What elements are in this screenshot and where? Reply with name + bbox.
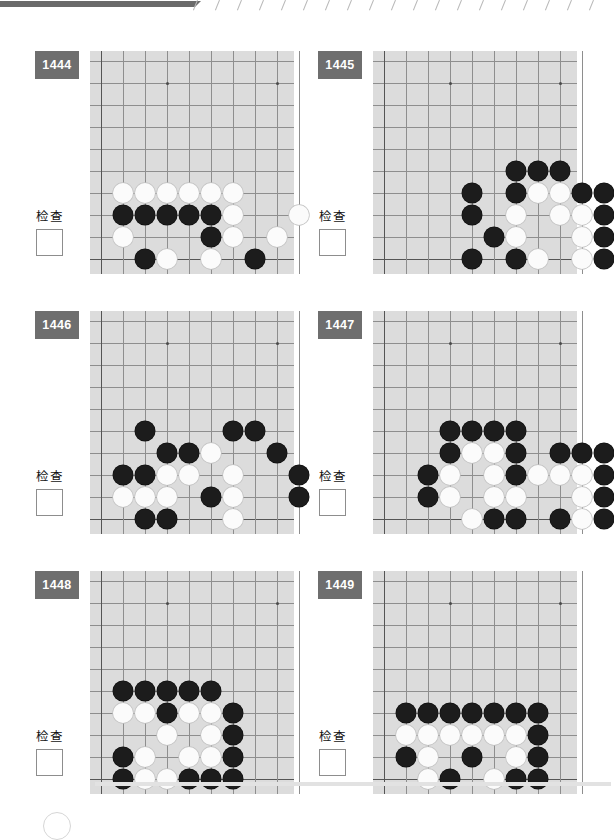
check-checkbox[interactable] [319,229,346,256]
black-stone[interactable] [462,205,482,225]
black-stone[interactable] [572,443,592,463]
black-stone[interactable] [506,769,526,789]
white-stone[interactable] [484,487,504,507]
white-stone[interactable] [506,205,526,225]
white-stone[interactable] [201,183,221,203]
white-stone[interactable] [157,249,177,269]
white-stone[interactable] [528,183,548,203]
white-stone[interactable] [201,249,221,269]
black-stone[interactable] [506,183,526,203]
go-board[interactable] [373,311,577,534]
black-stone[interactable] [528,725,548,745]
black-stone[interactable] [179,681,199,701]
black-stone[interactable] [462,747,482,767]
white-stone[interactable] [223,487,243,507]
black-stone[interactable] [440,703,460,723]
check-checkbox[interactable] [319,489,346,516]
white-stone[interactable] [506,487,526,507]
white-stone[interactable] [506,227,526,247]
white-stone[interactable] [179,183,199,203]
white-stone[interactable] [550,183,570,203]
black-stone[interactable] [396,747,416,767]
go-board[interactable] [373,51,577,274]
black-stone[interactable] [179,769,199,789]
white-stone[interactable] [440,487,460,507]
black-stone[interactable] [157,509,177,529]
black-stone[interactable] [418,465,438,485]
black-stone[interactable] [594,509,614,529]
black-stone[interactable] [135,509,155,529]
white-stone[interactable] [157,487,177,507]
white-stone[interactable] [223,465,243,485]
black-stone[interactable] [594,465,614,485]
white-stone[interactable] [157,725,177,745]
black-stone[interactable] [528,747,548,767]
go-board[interactable] [90,311,294,534]
go-board[interactable] [373,571,577,794]
black-stone[interactable] [223,725,243,745]
black-stone[interactable] [289,487,309,507]
white-stone[interactable] [179,465,199,485]
white-stone[interactable] [179,703,199,723]
go-board[interactable] [90,51,294,274]
black-stone[interactable] [418,703,438,723]
white-stone[interactable] [506,725,526,745]
white-stone[interactable] [157,769,177,789]
white-stone[interactable] [201,443,221,463]
black-stone[interactable] [135,421,155,441]
white-stone[interactable] [528,249,548,269]
black-stone[interactable] [484,227,504,247]
black-stone[interactable] [506,443,526,463]
white-stone[interactable] [135,487,155,507]
white-stone[interactable] [113,487,133,507]
white-stone[interactable] [418,747,438,767]
black-stone[interactable] [550,443,570,463]
white-stone[interactable] [267,227,287,247]
white-stone[interactable] [440,465,460,485]
black-stone[interactable] [528,769,548,789]
black-stone[interactable] [223,421,243,441]
black-stone[interactable] [484,421,504,441]
black-stone[interactable] [223,747,243,767]
white-stone[interactable] [484,769,504,789]
black-stone[interactable] [135,681,155,701]
black-stone[interactable] [440,421,460,441]
black-stone[interactable] [594,227,614,247]
black-stone[interactable] [201,487,221,507]
black-stone[interactable] [462,421,482,441]
white-stone[interactable] [223,183,243,203]
black-stone[interactable] [484,703,504,723]
white-stone[interactable] [201,725,221,745]
black-stone[interactable] [440,769,460,789]
white-stone[interactable] [418,769,438,789]
black-stone[interactable] [594,249,614,269]
white-stone[interactable] [223,509,243,529]
white-stone[interactable] [572,205,592,225]
check-checkbox[interactable] [319,749,346,776]
black-stone[interactable] [594,487,614,507]
white-stone[interactable] [135,183,155,203]
white-stone[interactable] [157,465,177,485]
black-stone[interactable] [223,703,243,723]
black-stone[interactable] [462,703,482,723]
black-stone[interactable] [440,443,460,463]
black-stone[interactable] [506,703,526,723]
white-stone[interactable] [462,509,482,529]
black-stone[interactable] [506,421,526,441]
black-stone[interactable] [113,681,133,701]
white-stone[interactable] [484,465,504,485]
white-stone[interactable] [484,725,504,745]
black-stone[interactable] [157,205,177,225]
black-stone[interactable] [396,703,416,723]
black-stone[interactable] [201,227,221,247]
white-stone[interactable] [572,249,592,269]
black-stone[interactable] [484,509,504,529]
white-stone[interactable] [113,227,133,247]
white-stone[interactable] [550,465,570,485]
black-stone[interactable] [550,509,570,529]
black-stone[interactable] [528,703,548,723]
white-stone[interactable] [201,747,221,767]
black-stone[interactable] [506,249,526,269]
white-stone[interactable] [572,465,592,485]
check-checkbox[interactable] [36,749,63,776]
